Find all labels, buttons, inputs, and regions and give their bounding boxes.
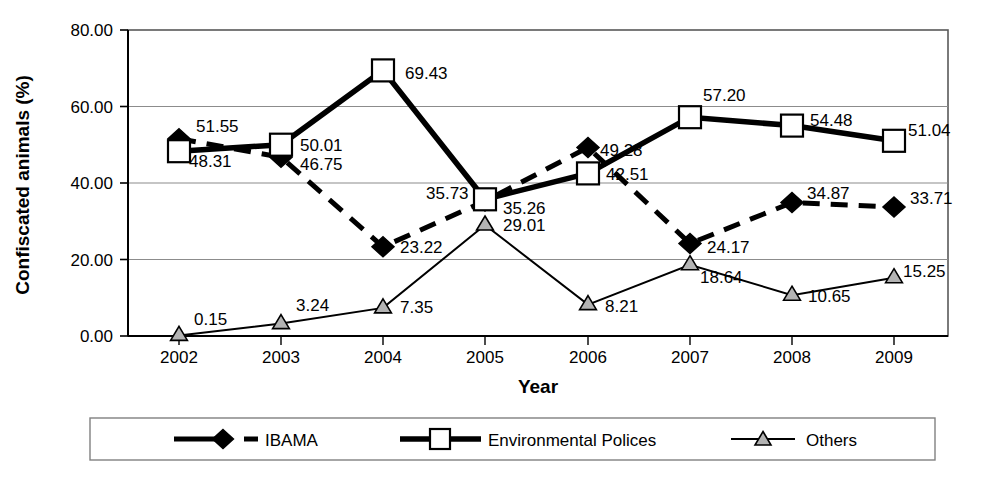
data-label-police-2005: 35.73 xyxy=(426,184,469,203)
y-tick-label-80: 80.00 xyxy=(70,21,113,40)
data-label-ibama-2007: 24.17 xyxy=(707,238,750,257)
x-tick-label-2009: 2009 xyxy=(875,348,913,367)
marker-police-2002 xyxy=(168,140,190,162)
data-label-police-2008: 54.48 xyxy=(810,111,853,130)
data-label-ibama-2002: 51.55 xyxy=(196,117,239,136)
x-axis-title: Year xyxy=(518,376,559,397)
legend-label-environmental-polices: Environmental Polices xyxy=(488,431,656,450)
data-label-police-2003: 50.01 xyxy=(300,136,343,155)
data-label-ibama-2009: 33.71 xyxy=(910,189,953,208)
y-tick-label-60: 60.00 xyxy=(70,98,113,117)
y-tick-labels: 80.00 60.00 40.00 20.00 0.00 xyxy=(70,21,113,346)
marker-police-2008 xyxy=(781,115,803,137)
x-tick-label-2008: 2008 xyxy=(773,348,811,367)
data-label-others-2005: 29.01 xyxy=(503,216,546,235)
legend-label-others: Others xyxy=(806,431,857,450)
y-axis-ticks xyxy=(120,30,128,336)
x-tick-label-2003: 2003 xyxy=(262,348,300,367)
data-label-ibama-2008: 34.87 xyxy=(807,184,850,203)
marker-police-2004 xyxy=(372,59,394,81)
data-label-others-2004: 7.35 xyxy=(400,298,433,317)
y-tick-label-20: 20.00 xyxy=(70,251,113,270)
marker-police-2007 xyxy=(679,106,701,128)
data-label-ibama-2003: 46.75 xyxy=(300,155,343,174)
y-tick-label-40: 40.00 xyxy=(70,174,113,193)
data-label-others-2006: 8.21 xyxy=(605,297,638,316)
y-tick-label-0: 0.00 xyxy=(80,327,113,346)
marker-police-2006 xyxy=(577,162,599,184)
x-tick-label-2005: 2005 xyxy=(466,348,504,367)
chart-container: 80.00 60.00 40.00 20.00 0.00 2002 2003 2… xyxy=(0,0,981,483)
data-label-ibama-2006: 49.28 xyxy=(600,141,643,160)
data-label-others-2009: 15.25 xyxy=(903,262,946,281)
data-label-others-2008: 10.65 xyxy=(808,287,851,306)
x-tick-label-2004: 2004 xyxy=(364,348,402,367)
x-axis-ticks xyxy=(179,336,894,345)
marker-police-2003 xyxy=(270,134,292,156)
data-label-police-2009: 51.04 xyxy=(908,121,951,140)
data-label-police-2002: 48.31 xyxy=(189,152,232,171)
data-label-others-2007: 18.64 xyxy=(700,268,743,287)
x-tick-label-2006: 2006 xyxy=(569,348,607,367)
data-label-police-2006: 42.51 xyxy=(606,165,649,184)
legend-label-ibama: IBAMA xyxy=(265,431,319,450)
data-label-others-2002: 0.15 xyxy=(194,310,227,329)
data-label-others-2003: 3.24 xyxy=(296,296,329,315)
line-chart: 80.00 60.00 40.00 20.00 0.00 2002 2003 2… xyxy=(0,0,981,483)
x-tick-label-2002: 2002 xyxy=(160,348,198,367)
data-label-police-2004: 69.43 xyxy=(405,64,448,83)
chart-legend: IBAMA Environmental Polices Others xyxy=(90,418,935,460)
marker-police-2009 xyxy=(883,130,905,152)
marker-police-2005 xyxy=(474,188,496,210)
legend-item-environmental-polices[interactable]: Environmental Polices xyxy=(400,429,656,450)
y-axis-title: Confiscated animals (%) xyxy=(12,75,33,295)
legend-marker-open-square-icon xyxy=(430,429,450,449)
data-label-ibama-2004: 23.22 xyxy=(400,238,443,257)
x-tick-labels: 2002 2003 2004 2005 2006 2007 2008 2009 xyxy=(160,348,913,367)
x-tick-label-2007: 2007 xyxy=(671,348,709,367)
data-label-police-2007: 57.20 xyxy=(703,86,746,105)
